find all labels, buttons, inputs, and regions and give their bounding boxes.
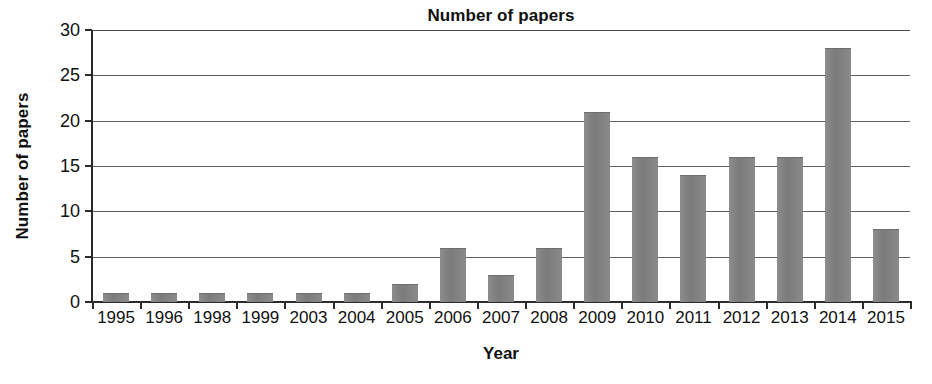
bar-slot xyxy=(429,30,477,302)
bar-slot xyxy=(284,30,332,302)
bar-slot xyxy=(140,30,188,302)
bar[interactable] xyxy=(584,112,610,302)
bar-slot xyxy=(525,30,573,302)
bar[interactable] xyxy=(296,293,322,302)
bar[interactable] xyxy=(632,157,658,302)
y-tick-label-0: 0 xyxy=(70,293,80,311)
y-tick-mark-25 xyxy=(85,74,92,76)
x-tick-label-2006: 2006 xyxy=(434,308,472,328)
y-axis-title-label: Number of papers xyxy=(13,92,33,239)
x-tick-label-2011: 2011 xyxy=(675,308,712,328)
bar-slot xyxy=(188,30,236,302)
bar-slot xyxy=(669,30,717,302)
bar[interactable] xyxy=(777,157,803,302)
bar[interactable] xyxy=(103,293,129,302)
x-tick-label-2005: 2005 xyxy=(386,308,424,328)
bar[interactable] xyxy=(680,175,706,302)
x-tick-label-2007: 2007 xyxy=(482,308,520,328)
x-axis-tick-labels: 1995199619981999200320042005200620072008… xyxy=(92,308,910,334)
y-tick-mark-10 xyxy=(85,210,92,212)
bar-slot xyxy=(236,30,284,302)
bar-slot xyxy=(381,30,429,302)
bar-slot xyxy=(573,30,621,302)
bar[interactable] xyxy=(536,248,562,302)
x-tick-label-2009: 2009 xyxy=(578,308,616,328)
bar-slot xyxy=(814,30,862,302)
x-tick-label-2015: 2015 xyxy=(867,308,905,328)
bar[interactable] xyxy=(392,284,418,302)
y-tick-mark-5 xyxy=(85,256,92,258)
x-tick-label-1999: 1999 xyxy=(241,308,279,328)
bar-slot xyxy=(333,30,381,302)
bar[interactable] xyxy=(199,293,225,302)
plot-right-border xyxy=(910,30,911,302)
bar[interactable] xyxy=(344,293,370,302)
x-tick-mark xyxy=(910,302,912,309)
bar[interactable] xyxy=(729,157,755,302)
bar[interactable] xyxy=(873,229,899,302)
x-tick-label-2003: 2003 xyxy=(290,308,328,328)
bars-layer xyxy=(92,30,910,302)
x-tick-label-1995: 1995 xyxy=(97,308,135,328)
bar-slot xyxy=(718,30,766,302)
bar-chart-figure: Number of papers Number of papers 051015… xyxy=(0,0,932,384)
y-tick-label-20: 20 xyxy=(60,112,80,130)
bar-slot xyxy=(621,30,669,302)
x-tick-label-2004: 2004 xyxy=(338,308,376,328)
x-tick-label-2008: 2008 xyxy=(530,308,568,328)
bar-slot xyxy=(92,30,140,302)
y-tick-mark-30 xyxy=(85,29,92,31)
plot-area xyxy=(92,30,910,302)
bar[interactable] xyxy=(440,248,466,302)
y-tick-mark-20 xyxy=(85,120,92,122)
bar-slot xyxy=(766,30,814,302)
x-tick-label-2014: 2014 xyxy=(819,308,857,328)
x-tick-label-1998: 1998 xyxy=(193,308,231,328)
y-tick-label-10: 10 xyxy=(60,202,80,220)
y-tick-label-30: 30 xyxy=(60,21,80,39)
x-tick-label-2010: 2010 xyxy=(626,308,664,328)
x-axis-title: Year xyxy=(92,344,910,364)
y-axis-tick-labels: 051015202530 xyxy=(40,30,86,302)
bar-slot xyxy=(477,30,525,302)
chart-title: Number of papers xyxy=(92,6,910,26)
y-tick-label-5: 5 xyxy=(70,248,80,266)
bar[interactable] xyxy=(247,293,273,302)
x-tick-label-2013: 2013 xyxy=(771,308,809,328)
y-tick-label-25: 25 xyxy=(60,66,80,84)
bar[interactable] xyxy=(488,275,514,302)
bar-slot xyxy=(862,30,910,302)
bar[interactable] xyxy=(825,48,851,302)
y-tick-label-15: 15 xyxy=(60,157,80,175)
bar[interactable] xyxy=(151,293,177,302)
y-tick-mark-0 xyxy=(85,301,92,303)
y-tick-mark-15 xyxy=(85,165,92,167)
y-axis-title: Number of papers xyxy=(8,30,38,302)
x-tick-label-2012: 2012 xyxy=(723,308,761,328)
x-tick-label-1996: 1996 xyxy=(145,308,183,328)
